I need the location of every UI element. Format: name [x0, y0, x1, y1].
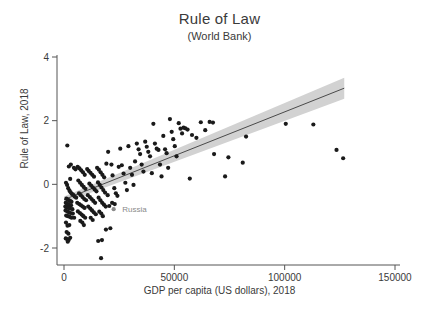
data-point	[194, 136, 198, 140]
data-point	[174, 154, 178, 158]
data-point	[84, 198, 88, 202]
data-point	[68, 236, 72, 240]
data-point	[107, 204, 111, 208]
data-point	[92, 175, 96, 179]
data-point	[284, 122, 288, 126]
data-point	[101, 214, 105, 218]
data-point	[151, 122, 155, 126]
data-point	[153, 141, 157, 145]
x-tick-label: 0	[61, 272, 67, 283]
data-point	[146, 150, 150, 154]
data-point	[118, 147, 122, 151]
data-point	[115, 194, 119, 198]
data-point	[108, 226, 112, 230]
data-point	[241, 161, 245, 165]
data-point	[120, 163, 124, 167]
data-point	[180, 131, 184, 135]
data-point	[121, 171, 125, 175]
chart-figure: Rule of Law (World Bank) Rule of Law, 20…	[0, 0, 439, 310]
data-point	[113, 202, 117, 206]
annotation-marker	[112, 207, 116, 211]
data-point	[341, 156, 345, 160]
data-point	[112, 186, 116, 190]
data-point	[93, 201, 97, 205]
data-point	[190, 133, 194, 137]
data-point	[126, 144, 130, 148]
data-point	[148, 154, 152, 158]
data-point	[212, 152, 216, 156]
data-point	[136, 147, 140, 151]
data-point	[133, 159, 137, 163]
data-point	[166, 166, 170, 170]
data-point	[141, 170, 145, 174]
data-point	[104, 162, 108, 166]
data-point	[135, 141, 139, 145]
data-point	[82, 223, 86, 227]
confidence-band	[64, 78, 344, 203]
data-point	[68, 177, 72, 181]
data-point	[99, 256, 103, 260]
data-point	[199, 120, 203, 124]
x-tick-label: 50000	[160, 272, 188, 283]
data-point	[165, 151, 169, 155]
data-point	[109, 163, 113, 167]
data-point	[69, 163, 73, 167]
data-point	[177, 121, 181, 125]
data-point	[131, 183, 135, 187]
data-point	[161, 134, 165, 138]
data-point	[82, 206, 86, 210]
data-point	[159, 174, 163, 178]
data-point	[244, 134, 248, 138]
data-point	[102, 175, 106, 179]
data-point	[188, 177, 192, 181]
data-point	[70, 207, 74, 211]
data-point	[66, 232, 70, 236]
x-tick-label: 150000	[378, 272, 412, 283]
data-point	[223, 174, 227, 178]
data-point	[334, 148, 338, 152]
data-point	[128, 166, 132, 170]
data-point	[71, 212, 75, 216]
data-point	[173, 144, 177, 148]
data-point	[94, 212, 98, 216]
data-point	[123, 181, 127, 185]
data-point	[311, 122, 315, 126]
x-tick-label: 100000	[268, 272, 302, 283]
data-point	[66, 240, 70, 244]
y-tick-label: 4	[43, 52, 49, 63]
data-point	[170, 130, 174, 134]
data-point	[106, 193, 110, 197]
data-point	[226, 155, 230, 159]
data-point	[74, 196, 78, 200]
data-point	[96, 239, 100, 243]
data-point	[104, 205, 108, 209]
annotations: Russia	[112, 205, 148, 214]
data-point	[150, 171, 154, 175]
data-point	[67, 223, 71, 227]
y-tick-label: 2	[43, 115, 49, 126]
data-point	[91, 218, 95, 222]
data-point	[185, 127, 189, 131]
data-point	[143, 140, 147, 144]
data-point	[203, 128, 207, 132]
data-point	[83, 173, 87, 177]
data-point	[168, 117, 172, 121]
data-point	[110, 173, 114, 177]
data-point	[145, 145, 149, 149]
data-point	[130, 173, 134, 177]
y-tick-label: 0	[43, 179, 49, 190]
data-point	[140, 163, 144, 167]
data-point	[211, 120, 215, 124]
data-point	[72, 216, 76, 220]
data-point	[158, 163, 162, 167]
data-point	[171, 137, 175, 141]
data-point	[65, 143, 69, 147]
data-point	[83, 187, 87, 191]
y-tick-label: -2	[40, 243, 49, 254]
data-point	[104, 227, 108, 231]
data-point	[138, 152, 142, 156]
data-point	[83, 216, 87, 220]
data-point	[125, 188, 129, 192]
plot-area: -2024050000100000150000 Russia	[0, 0, 439, 310]
data-point	[100, 238, 104, 242]
